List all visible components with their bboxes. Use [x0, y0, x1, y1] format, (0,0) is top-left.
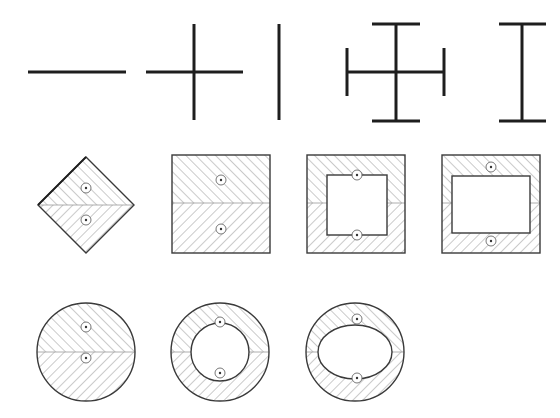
- marker-icon: [486, 236, 496, 246]
- cross-with-end-caps-symbol: [347, 24, 444, 121]
- cross-section-diagram: [0, 0, 560, 418]
- marker-icon: [352, 230, 362, 240]
- marker-icon: [352, 170, 362, 180]
- marker-icon: [81, 353, 91, 363]
- marker-icon: [81, 183, 91, 193]
- marker-icon: [216, 224, 226, 234]
- marker-icon: [81, 322, 91, 332]
- i-beam-symbol: [499, 24, 546, 121]
- marker-icon: [81, 215, 91, 225]
- hollow-rectangular-section: [442, 155, 540, 253]
- marker-icon: [216, 175, 226, 185]
- solid-circle-section: [37, 303, 135, 401]
- marker-icon: [352, 314, 362, 324]
- plus-cross-symbol: [146, 24, 243, 120]
- annular-section: [171, 303, 269, 401]
- marker-icon: [215, 317, 225, 327]
- marker-icon: [215, 368, 225, 378]
- solid-square-section: [172, 155, 270, 253]
- diamond-section: [38, 157, 134, 253]
- marker-icon: [352, 373, 362, 383]
- hollow-square-section: [307, 155, 405, 253]
- marker-icon: [486, 162, 496, 172]
- elliptical-hole-section: [306, 303, 404, 401]
